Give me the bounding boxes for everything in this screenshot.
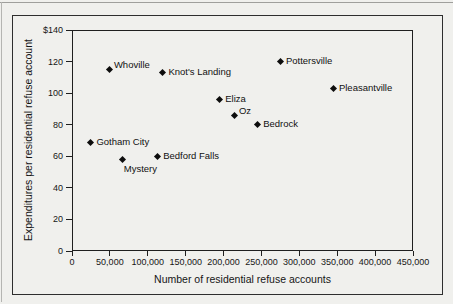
y-tick-label: 100	[23, 88, 63, 98]
y-tick-mark	[66, 187, 72, 188]
y-tick-mark	[66, 124, 72, 125]
scan-artifact-line	[0, 2, 453, 3]
x-tick-mark	[375, 251, 376, 256]
scatter-chart: Expenditures per residential refuse acco…	[0, 0, 453, 304]
y-tick-mark	[66, 30, 72, 31]
y-tick-label: 80	[23, 120, 63, 130]
x-tick-mark	[223, 251, 224, 256]
y-tick-mark	[66, 93, 72, 94]
x-tick-mark	[109, 251, 110, 256]
data-point-label: Bedford Falls	[163, 151, 219, 161]
x-tick-mark	[261, 251, 262, 256]
y-tick-label: 120	[23, 57, 63, 67]
y-tick-label: 20	[23, 214, 63, 224]
y-axis-title: Expenditures per residential refuse acco…	[20, 0, 36, 280]
x-tick-label: 450,000	[388, 257, 438, 267]
x-tick-mark	[72, 251, 73, 256]
y-tick-label: 60	[23, 151, 63, 161]
x-tick-mark	[147, 251, 148, 256]
y-tick-label: 40	[23, 183, 63, 193]
data-point-label: Eliza	[225, 94, 246, 104]
data-point-label: Pleasantville	[339, 83, 392, 93]
data-point-label: Pottersville	[286, 56, 332, 66]
x-tick-mark	[299, 251, 300, 256]
y-tick-mark	[66, 156, 72, 157]
data-point-label: Bedrock	[263, 119, 298, 129]
y-tick-label: 0	[23, 246, 63, 256]
y-tick-mark	[66, 61, 72, 62]
data-point-label: Knot's Landing	[168, 67, 231, 77]
x-axis-title: Number of residential refuse accounts	[72, 273, 413, 287]
y-tick-label: $140	[23, 25, 63, 35]
data-point-label: Whoville	[114, 60, 150, 70]
x-tick-mark	[337, 251, 338, 256]
x-tick-mark	[413, 251, 414, 256]
data-point-label: Gotham City	[96, 137, 149, 147]
data-point-label: Mystery	[124, 164, 157, 174]
data-point-label: Oz	[239, 106, 251, 116]
x-tick-mark	[185, 251, 186, 256]
scan-artifact-line	[1, 2, 2, 302]
y-tick-mark	[66, 219, 72, 220]
